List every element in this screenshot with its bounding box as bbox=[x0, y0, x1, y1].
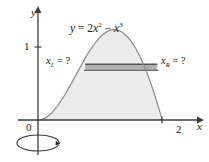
math-figure: y = 2x2 − x3 y x 1 0 2 xL = ? xR = ? bbox=[0, 0, 209, 162]
x-left-annotation: xL = ? bbox=[46, 56, 70, 69]
x-right-annotation: xR = ? bbox=[161, 56, 186, 69]
origin-label: 0 bbox=[26, 122, 32, 133]
curve-equation-label: y = 2x2 − x3 bbox=[70, 22, 123, 34]
x-axis-label: x bbox=[197, 121, 202, 132]
equation-eq: = 2 bbox=[75, 22, 93, 34]
shell-strip-band bbox=[85, 64, 157, 70]
equation-minus: − bbox=[102, 22, 114, 34]
x-left-value: = ? bbox=[54, 55, 70, 66]
x-right-value: = ? bbox=[170, 55, 186, 66]
x-tick-two-label: 2 bbox=[176, 124, 182, 135]
y-tick-one-label: 1 bbox=[24, 41, 30, 52]
equation-exponent-three: 3 bbox=[119, 21, 123, 29]
y-axis-label: y bbox=[31, 7, 36, 18]
